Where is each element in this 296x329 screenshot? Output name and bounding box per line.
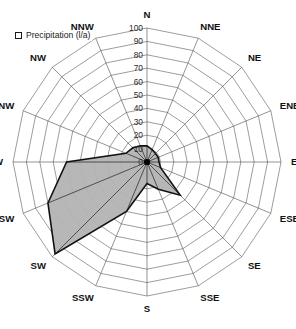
direction-label-SE-6: SE (248, 260, 261, 271)
radial-tick-60: 60 (134, 77, 144, 87)
radial-tick-90: 90 (134, 36, 144, 46)
radial-tick-80: 80 (134, 50, 144, 60)
chart-legend: Precipitation (l/a) (13, 30, 92, 41)
legend-label: Precipitation (l/a) (26, 31, 90, 40)
radial-tick-20: 20 (134, 130, 144, 140)
direction-label-WSW-11: WSW (0, 213, 15, 224)
direction-label-ESE-5: ESE (280, 213, 296, 224)
direction-label-NNE-1: NNE (200, 21, 221, 32)
radial-tick-0: 0 (138, 157, 143, 167)
radial-tick-70: 70 (134, 63, 144, 73)
direction-label-NW-14: NW (30, 52, 47, 63)
axis-spoke-NNE-1 (147, 38, 198, 162)
direction-label-SSW-9: SSW (72, 292, 95, 303)
radial-tick-40: 40 (134, 103, 144, 113)
direction-label-NE-2: NE (248, 52, 262, 63)
radial-tick-30: 30 (134, 117, 144, 127)
precipitation-rose-chart: 0102030405060708090100 NNNENEENEENEESESE… (0, 0, 296, 329)
radial-tick-100: 100 (129, 23, 143, 33)
direction-label-W-12: W (0, 156, 4, 167)
direction-label-WNW-13: WNW (0, 100, 15, 111)
direction-label-SSE-7: SSE (200, 292, 220, 303)
radar-plot-area: 0102030405060708090100 NNNENEENEENEESESE… (0, 0, 296, 329)
series-color-swatch (15, 32, 22, 39)
direction-label-N-0: N (144, 9, 151, 20)
axis-spoke-ENE-3 (147, 111, 271, 162)
radial-tick-50: 50 (134, 90, 144, 100)
direction-label-ENE-4: ENE (291, 156, 296, 167)
direction-label-S-8: S (144, 303, 151, 314)
center-hub-marker (144, 159, 150, 165)
plot-center-hub (144, 159, 150, 165)
direction-label-SW-10: SW (31, 260, 47, 271)
axis-spoke-NE-2 (147, 67, 242, 162)
radial-tick-10: 10 (134, 144, 144, 154)
direction-label-ENE-3: ENE (280, 100, 296, 111)
